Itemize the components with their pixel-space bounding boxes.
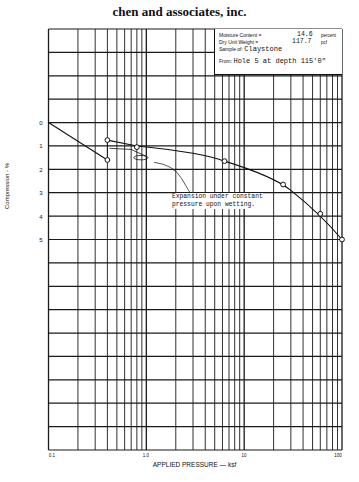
- y-tick-2: 2: [38, 167, 44, 173]
- annotation-line-2: pressure upon wetting.: [172, 201, 263, 209]
- moisture-unit: percent: [321, 32, 336, 39]
- y-tick-4: 4: [38, 214, 44, 220]
- moisture-label: Moisture Content =: [219, 32, 261, 38]
- x-tick-1-0: 1.0: [143, 453, 149, 458]
- x-tick-10: 10: [241, 453, 246, 458]
- sample-label: Sample of:: [219, 46, 243, 52]
- y-tick-1: 1: [38, 143, 44, 149]
- expansion-annotation: Expansion under constant pressure upon w…: [172, 193, 263, 209]
- chart-grid: [49, 29, 343, 450]
- sample-info-box: Moisture Content =14.6percent Dry Unit W…: [214, 29, 342, 75]
- plot-series: [49, 123, 345, 242]
- from-value: Hole 5 at depth 115'0": [233, 57, 325, 65]
- y-tick-5: 5: [38, 237, 44, 243]
- dry-weight-unit: pcf: [321, 39, 327, 46]
- y-tick-3: 3: [38, 190, 44, 196]
- dry-weight-value: 117.7: [292, 38, 312, 45]
- y-axis-label: Compression - %: [4, 163, 10, 209]
- x-tick-0-1: 0.1: [49, 453, 55, 458]
- annotation-line-1: Expansion under constant: [172, 193, 263, 201]
- x-tick-100: 100: [334, 453, 342, 458]
- from-label: From:: [219, 58, 232, 64]
- x-axis-label: APPLIED PRESSURE — ksf: [0, 461, 359, 468]
- moisture-value: 14.6: [297, 31, 313, 38]
- sample-value: Claystone: [244, 45, 282, 53]
- y-tick-0: 0: [38, 120, 44, 126]
